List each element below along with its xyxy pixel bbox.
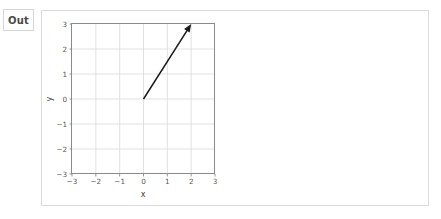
x-tick-labels: −3−2−10123 [67,177,218,186]
y-tick-label: 3 [62,20,67,29]
plot-figure: −3−2−10123 −3−2−10123 x y [42,11,242,207]
plot-canvas: −3−2−10123 −3−2−10123 x y [42,11,242,207]
tick-marks [70,24,216,177]
y-tick-label: 0 [62,95,67,104]
y-tick-label: −1 [56,120,67,129]
y-tick-label: 1 [62,70,67,79]
out-cell-label: Out [3,9,34,31]
x-tick-label: −2 [91,177,102,186]
x-tick-label: 1 [165,177,170,186]
output-card: −3−2−10123 −3−2−10123 x y [41,10,429,206]
y-tick-label: 2 [62,45,67,54]
x-axis-label: x [141,190,146,199]
x-tick-label: 0 [141,177,146,186]
arrow-head-icon [184,24,191,33]
x-tick-label: 3 [213,177,218,186]
y-tick-labels: −3−2−10123 [56,20,67,179]
x-tick-label: −3 [67,177,78,186]
y-tick-label: −3 [56,170,67,179]
x-tick-label: 2 [189,177,194,186]
vector-shaft [144,29,188,99]
x-tick-label: −1 [114,177,125,186]
y-axis-label: y [45,96,54,101]
y-tick-label: −2 [56,145,67,154]
